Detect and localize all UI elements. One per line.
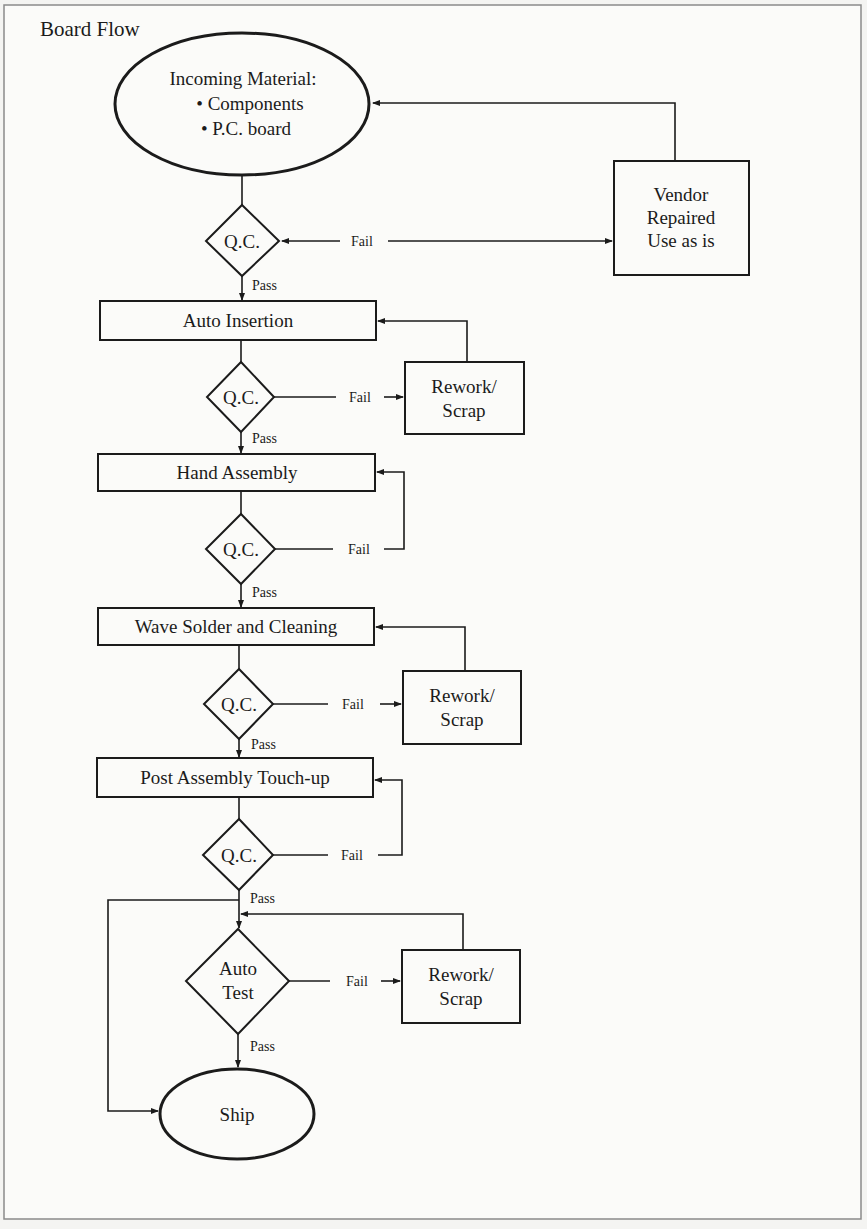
- qc-label: Q.C.: [224, 231, 260, 252]
- pass-label: Pass: [252, 585, 277, 600]
- incoming-material-heading: Incoming Material:: [169, 68, 316, 89]
- fail-label: Fail: [346, 974, 368, 989]
- board-flow-diagram: Board Flow Incoming Material: • Componen…: [0, 0, 867, 1229]
- incoming-bullet-components: • Components: [196, 93, 303, 114]
- fail-label: Fail: [351, 234, 373, 249]
- svg-text:Hand Assembly: Hand Assembly: [177, 462, 298, 483]
- svg-text:Q.C.: Q.C.: [223, 539, 259, 560]
- fail-label: Fail: [341, 848, 363, 863]
- pass-label: Pass: [252, 278, 277, 293]
- page-frame: [4, 5, 861, 1219]
- pass-label: Pass: [251, 737, 276, 752]
- fail-label: Fail: [349, 390, 371, 405]
- svg-text:Auto: Auto: [219, 958, 257, 979]
- pass-label: Pass: [250, 1039, 275, 1054]
- svg-text:Rework/: Rework/: [429, 685, 495, 706]
- svg-text:Scrap: Scrap: [442, 400, 485, 421]
- svg-text:Scrap: Scrap: [440, 709, 483, 730]
- svg-text:Q.C.: Q.C.: [221, 845, 257, 866]
- svg-text:Rework/: Rework/: [431, 376, 497, 397]
- vendor-line-3: Use as is: [647, 230, 715, 251]
- svg-text:Q.C.: Q.C.: [223, 387, 259, 408]
- svg-text:Test: Test: [222, 982, 254, 1003]
- vendor-line-2: Repaired: [647, 207, 716, 228]
- svg-text:Scrap: Scrap: [439, 988, 482, 1009]
- svg-text:Rework/: Rework/: [428, 964, 494, 985]
- pass-label: Pass: [250, 891, 275, 906]
- diagram-title: Board Flow: [40, 17, 141, 41]
- svg-text:Wave Solder and Cleaning: Wave Solder and Cleaning: [135, 616, 338, 637]
- fail-label: Fail: [348, 542, 370, 557]
- svg-text:Ship: Ship: [220, 1104, 255, 1125]
- vendor-line-1: Vendor: [654, 184, 710, 205]
- fail-label: Fail: [342, 697, 364, 712]
- pass-label: Pass: [252, 431, 277, 446]
- svg-text:Post Assembly Touch-up: Post Assembly Touch-up: [140, 767, 329, 788]
- svg-text:Q.C.: Q.C.: [221, 694, 257, 715]
- svg-text:Auto Insertion: Auto Insertion: [183, 310, 294, 331]
- incoming-bullet-pc-board: • P.C. board: [201, 118, 292, 139]
